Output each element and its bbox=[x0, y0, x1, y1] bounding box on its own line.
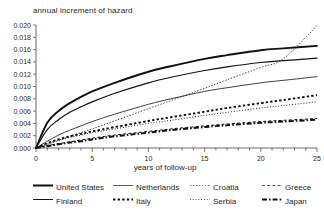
legend-item-netherlands[interactable]: Netherlands bbox=[113, 181, 179, 194]
y-tick-label: 0.014 bbox=[13, 58, 31, 65]
legend-line-swatch bbox=[33, 183, 53, 192]
y-tick-label: 0.018 bbox=[13, 34, 31, 41]
x-tick-label: 20 bbox=[257, 155, 265, 162]
legend-item-serbia[interactable]: Serbia bbox=[190, 195, 236, 208]
x-tick-label: 5 bbox=[90, 155, 94, 162]
x-tick-label: 25 bbox=[313, 155, 321, 162]
legend-item-italy[interactable]: Italy bbox=[113, 195, 151, 208]
chart-figure: annual increment of hazard 0.0000.0020.0… bbox=[0, 0, 324, 215]
x-tick-label: 10 bbox=[145, 155, 153, 162]
legend-line-swatch bbox=[190, 183, 210, 192]
y-tick-label: 0.010 bbox=[13, 83, 31, 90]
y-tick-label: 0.016 bbox=[13, 46, 31, 53]
legend-item-finland[interactable]: Finland bbox=[33, 195, 82, 208]
legend-item-greece[interactable]: Greece bbox=[262, 181, 311, 194]
x-axis-label-text: years of follow-up bbox=[134, 163, 197, 172]
series-line-finland bbox=[36, 58, 317, 148]
y-tick-label: 0.000 bbox=[13, 145, 31, 152]
legend-line-swatch bbox=[113, 197, 133, 206]
legend-item-label: Greece bbox=[285, 183, 311, 192]
legend-item-label: Serbia bbox=[213, 197, 236, 206]
legend-row-top: United StatesNetherlandsCroatiaGreece bbox=[0, 181, 324, 194]
legend-item-united-states[interactable]: United States bbox=[33, 181, 104, 194]
legend-line-swatch bbox=[262, 183, 282, 192]
x-axis-label: years of follow-up bbox=[0, 163, 324, 172]
legend-line-swatch bbox=[113, 183, 133, 192]
legend-line-swatch bbox=[190, 197, 210, 206]
x-tick-label: 15 bbox=[201, 155, 209, 162]
legend-item-label: Netherlands bbox=[136, 183, 179, 192]
legend-item-label: Italy bbox=[136, 197, 151, 206]
plot-area: 0.0000.0020.0040.0060.0080.0100.0120.014… bbox=[0, 0, 324, 168]
y-tick-label: 0.020 bbox=[13, 22, 31, 29]
legend-item-label: Finland bbox=[56, 197, 82, 206]
legend-line-swatch bbox=[262, 197, 282, 206]
legend-line-swatch bbox=[33, 197, 53, 206]
y-tick-label: 0.006 bbox=[13, 108, 31, 115]
y-tick-label: 0.012 bbox=[13, 71, 31, 78]
y-tick-label: 0.002 bbox=[13, 132, 31, 139]
series-line-netherlands bbox=[36, 77, 317, 148]
y-tick-label: 0.008 bbox=[13, 95, 31, 102]
legend-row-bottom: FinlandItalySerbiaJapan bbox=[0, 195, 324, 208]
legend-item-croatia[interactable]: Croatia bbox=[190, 181, 239, 194]
chart-legend: United StatesNetherlandsCroatiaGreece Fi… bbox=[0, 180, 324, 214]
legend-item-japan[interactable]: Japan bbox=[262, 195, 307, 208]
series-line-japan bbox=[36, 120, 317, 148]
x-tick-label: 0 bbox=[34, 155, 38, 162]
legend-item-label: United States bbox=[56, 183, 104, 192]
legend-item-label: Japan bbox=[285, 197, 307, 206]
y-tick-label: 0.004 bbox=[13, 120, 31, 127]
legend-item-label: Croatia bbox=[213, 183, 239, 192]
